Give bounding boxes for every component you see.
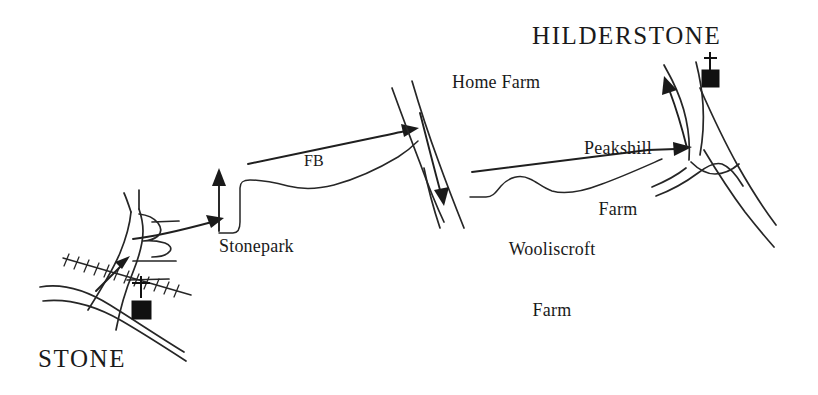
label-wooliscroft-farm: Wooliscroft Farm <box>497 199 607 360</box>
label-wooliscroft-farm-line1: Wooliscroft <box>497 239 607 259</box>
sketch-map: HILDERSTONE STONE Stonepark FB Home Farm… <box>0 0 818 395</box>
arrow-stone-northeast <box>96 256 130 291</box>
route-stone-to-stonepark <box>133 215 224 239</box>
label-stonepark: Stonepark <box>219 236 294 256</box>
church-symbol-hilderstone <box>702 52 719 87</box>
arrow-fb-east <box>248 124 419 164</box>
map-linework <box>0 0 818 395</box>
label-fb: FB <box>304 152 324 170</box>
road-stone-north-arm <box>124 193 131 212</box>
label-peakshill-farm-line1: Peakshill <box>568 138 668 158</box>
road-home-farm-spur <box>424 168 440 228</box>
road-hilderstone-southeast-outer <box>700 88 776 225</box>
road-stone-stub-upper <box>152 221 179 222</box>
road-stone-southwest-outer <box>40 286 184 352</box>
label-home-farm: Home Farm <box>452 72 540 92</box>
label-stone: STONE <box>38 345 126 373</box>
label-hilderstone: HILDERSTONE <box>532 22 721 50</box>
road-home-farm-east <box>412 81 464 228</box>
church-symbol-stone <box>132 276 151 319</box>
label-wooliscroft-farm-line2: Farm <box>497 300 607 320</box>
arrow-home-farm-south <box>420 113 449 206</box>
